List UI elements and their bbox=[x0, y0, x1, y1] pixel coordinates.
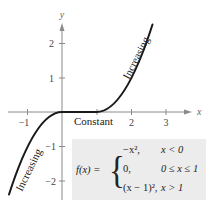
increasing-label-right: Increasing bbox=[120, 34, 152, 81]
case-expr: −x², bbox=[123, 144, 140, 155]
x-tick-label: 2 bbox=[129, 117, 134, 128]
x-axis-arrow-icon bbox=[184, 110, 192, 115]
case-cond: x < 0 bbox=[160, 144, 184, 155]
x-tick-label: −1 bbox=[19, 117, 30, 128]
case-cond: x > 1 bbox=[160, 182, 183, 193]
case-cond: 0 ≤ x ≤ 1 bbox=[161, 163, 198, 174]
y-axis-label: y bbox=[59, 9, 65, 20]
case-expr: (x − 1)², bbox=[123, 182, 157, 194]
constant-label: Constant bbox=[74, 115, 113, 127]
function-lhs: f(x) = bbox=[76, 164, 100, 176]
y-tick-label: −1 bbox=[45, 141, 56, 152]
y-axis-arrow-icon bbox=[60, 23, 65, 31]
y-tick-label: −2 bbox=[45, 176, 56, 187]
function-graph: −1 2 3 2 1 −1 −2 y x Constant Increasing… bbox=[0, 0, 211, 204]
y-tick-label: 1 bbox=[49, 73, 54, 84]
x-tick-label: 3 bbox=[164, 117, 169, 128]
case-expr: 0, bbox=[123, 163, 131, 174]
x-axis-label: x bbox=[196, 106, 202, 117]
y-tick-label: 2 bbox=[49, 38, 54, 49]
